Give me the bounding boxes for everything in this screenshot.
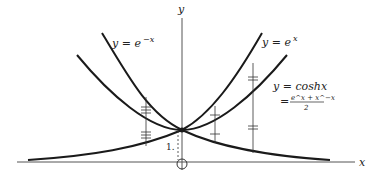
svg-text:y = coshx: y = coshx [272, 80, 328, 93]
svg-text:x: x [293, 34, 298, 43]
svg-text:−x: −x [143, 35, 155, 44]
svg-text:e^x + x^−x: e^x + x^−x [291, 94, 335, 102]
curve-exp-pos [28, 33, 262, 160]
label-exp-neg: y = e −x [111, 35, 155, 50]
x-axis-label: x [359, 156, 366, 169]
svg-text:=: = [280, 95, 289, 108]
svg-text:y = e: y = e [261, 36, 291, 49]
label-exp-pos: y = e x [261, 34, 298, 49]
diagram-canvas: 1. y x y = e −x y = e x y = coshx = e^x … [0, 0, 376, 177]
intersection-point [180, 128, 185, 133]
unit-label: 1. [166, 142, 175, 152]
y-axis-label: y [177, 3, 185, 16]
label-cosh: y = coshx = e^x + x^−x 2 [272, 80, 335, 112]
svg-text:2: 2 [303, 104, 309, 112]
svg-text:y = e: y = e [111, 37, 141, 50]
